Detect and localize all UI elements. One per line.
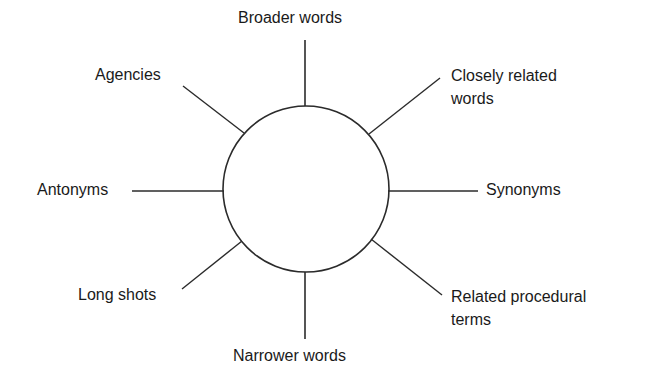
- center-circle: [223, 106, 389, 272]
- label-broader-words: Broader words: [238, 7, 342, 29]
- label-agencies: Agencies: [95, 64, 161, 86]
- label-antonyms: Antonyms: [37, 179, 108, 201]
- label-related-procedural-line2: terms: [451, 308, 586, 331]
- spoke-bottom-right: [371, 239, 442, 295]
- spoke-bottom-left: [182, 241, 242, 289]
- label-closely-related-line1: Closely related: [451, 64, 557, 87]
- label-synonyms: Synonyms: [486, 179, 561, 201]
- label-related-procedural-line1: Related procedural: [451, 285, 586, 308]
- label-long-shots: Long shots: [78, 284, 156, 306]
- spoke-top-right: [369, 78, 440, 134]
- label-narrower-words: Narrower words: [233, 345, 346, 367]
- spoke-top-left: [183, 86, 244, 133]
- label-related-procedural-terms: Related procedural terms: [451, 285, 586, 331]
- label-closely-related-words: Closely related words: [451, 64, 557, 110]
- label-closely-related-line2: words: [451, 87, 557, 110]
